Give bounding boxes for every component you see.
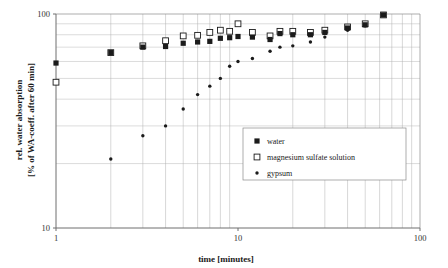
data-point-gypsum	[251, 57, 254, 60]
series-magnesium-sulfate-solution	[53, 12, 386, 85]
data-point-gypsum	[346, 29, 349, 32]
y-tick-label: 100	[37, 9, 50, 19]
data-point-water	[218, 36, 223, 41]
data-point-gypsum	[219, 77, 222, 80]
x-tick-label: 100	[414, 233, 427, 243]
data-point-gypsum	[164, 124, 167, 127]
y-axis-title-line2: [% of WA-coeff. after 60 min]	[26, 63, 36, 177]
data-point-gypsum	[228, 65, 231, 68]
data-point-water	[277, 31, 282, 36]
chart-svg: 110100 10100 watermagnesium sulfate solu…	[0, 0, 448, 268]
data-point-magnesium-sulfate-solution	[195, 32, 201, 38]
data-point-magnesium-sulfate-solution	[180, 33, 186, 39]
x-tick-labels: 110100	[54, 233, 427, 243]
legend-marker-magnesium-sulfate-solution	[254, 154, 260, 160]
data-point-water	[290, 32, 295, 37]
legend-label: magnesium sulfate solution	[267, 153, 355, 162]
data-point-magnesium-sulfate-solution	[53, 79, 59, 85]
data-point-gypsum	[309, 40, 312, 43]
data-point-magnesium-sulfate-solution	[235, 21, 241, 27]
y-tick-labels: 10100	[37, 9, 50, 233]
data-point-gypsum	[196, 93, 199, 96]
data-point-water	[207, 39, 212, 44]
data-point-water	[235, 34, 240, 39]
data-point-water	[267, 37, 272, 42]
x-tick-label: 1	[54, 233, 58, 243]
data-point-gypsum	[278, 45, 281, 48]
data-point-gypsum	[208, 84, 211, 87]
chart-legend: watermagnesium sulfate solutiongypsum	[243, 128, 406, 180]
data-point-water	[195, 39, 200, 44]
series-water	[53, 12, 386, 65]
data-point-water	[227, 35, 232, 40]
data-point-water	[108, 50, 113, 55]
data-point-water	[181, 41, 186, 46]
data-point-gypsum	[364, 24, 367, 27]
chart-figure: 110100 10100 watermagnesium sulfate solu…	[0, 0, 448, 268]
data-point-gypsum	[323, 35, 326, 38]
data-point-magnesium-sulfate-solution	[250, 30, 256, 36]
y-tick-label: 10	[42, 223, 51, 233]
y-axis-title-line1: rel. water absorption	[14, 80, 24, 160]
data-point-gypsum	[236, 60, 239, 63]
legend-marker-water	[254, 138, 259, 143]
data-point-water	[250, 34, 255, 39]
chart-canvas: 110100 10100 watermagnesium sulfate solu…	[0, 0, 448, 268]
x-tick-label: 10	[234, 233, 243, 243]
data-point-magnesium-sulfate-solution	[227, 28, 233, 34]
x-minor-gridlines	[111, 14, 412, 228]
data-point-gypsum	[291, 44, 294, 47]
plot-axes	[53, 14, 420, 231]
data-point-magnesium-sulfate-solution	[207, 30, 213, 36]
data-point-water	[322, 30, 327, 35]
legend-label: water	[267, 137, 285, 146]
data-point-gypsum	[141, 134, 144, 137]
data-point-water	[140, 45, 145, 50]
data-point-magnesium-sulfate-solution	[217, 27, 223, 33]
legend-marker-gypsum	[255, 171, 258, 174]
data-point-gypsum	[382, 13, 385, 16]
x-axis-title: time [minutes]	[198, 254, 254, 264]
data-point-water	[53, 60, 58, 65]
data-point-magnesium-sulfate-solution	[163, 38, 169, 44]
data-point-gypsum	[182, 107, 185, 110]
data-point-water	[163, 44, 168, 49]
data-point-gypsum	[268, 50, 271, 53]
data-point-water	[308, 32, 313, 37]
data-point-gypsum	[109, 157, 112, 160]
legend-label: gypsum	[267, 169, 293, 178]
